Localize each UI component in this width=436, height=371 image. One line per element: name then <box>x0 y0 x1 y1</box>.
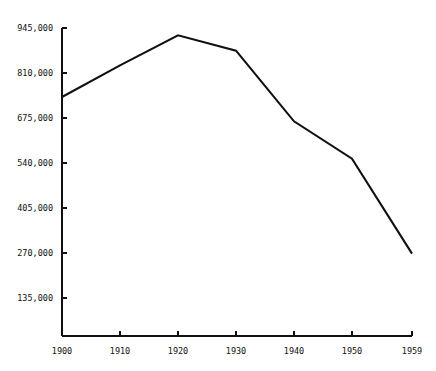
chart-axes <box>62 28 412 336</box>
x-axis-tick-label: 1959 <box>402 346 422 356</box>
chart-series-line <box>62 35 412 253</box>
chart-tick-marks <box>62 28 412 336</box>
chart-canvas <box>0 0 436 371</box>
x-axis-tick-label: 1950 <box>342 346 362 356</box>
x-axis-tick-label: 1930 <box>226 346 246 356</box>
y-axis-tick-label: 945,000 <box>0 23 53 33</box>
line-chart: 945,000810,000675,000540,000405,000270,0… <box>0 0 436 371</box>
y-axis-tick-label: 675,000 <box>0 113 53 123</box>
x-axis-tick-label: 1920 <box>168 346 188 356</box>
y-axis-tick-label: 270,000 <box>0 248 53 258</box>
y-axis-tick-label: 405,000 <box>0 203 53 213</box>
x-axis-tick-label: 1900 <box>52 346 72 356</box>
y-axis-tick-label: 135,000 <box>0 293 53 303</box>
y-axis-tick-label: 810,000 <box>0 68 53 78</box>
series-line-path <box>62 35 412 253</box>
y-axis-tick-label: 540,000 <box>0 158 53 168</box>
x-axis-tick-label: 1910 <box>110 346 130 356</box>
x-axis-tick-label: 1940 <box>284 346 304 356</box>
